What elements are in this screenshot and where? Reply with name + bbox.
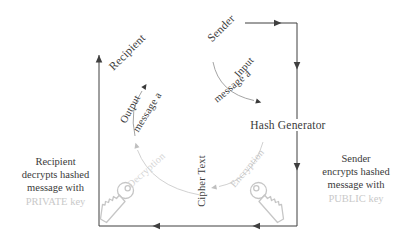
hash-generator-label: Hash Generator	[247, 119, 328, 131]
hash-signature-diagram: Recipient Sender Hash Generator Cipher T…	[0, 0, 394, 238]
sender-note-line: message with	[317, 178, 394, 191]
arrow-left-icon	[153, 223, 161, 230]
arrow-right-icon	[255, 99, 262, 106]
private-key-icon	[101, 183, 134, 223]
arrow-up-icon	[133, 142, 140, 149]
recipient-note-line: Recipient	[13, 155, 98, 168]
sender-note-line: Sender	[317, 152, 394, 165]
arrow-up-icon	[141, 82, 148, 89]
arrow-up-icon	[96, 55, 103, 63]
sender-note-line: encrypts hashed	[317, 165, 394, 178]
recipient-note-line: decrypts hashed	[13, 168, 98, 181]
recipient-note-line: message with	[13, 181, 98, 194]
recipient-note: Recipient decrypts hashed message with P…	[13, 155, 98, 208]
sender-note: Sender encrypts hashed message with PUBL…	[317, 152, 394, 205]
public-key-label: PUBLIC key	[317, 192, 394, 205]
public-key-icon	[251, 183, 284, 223]
cipher-text-label: Cipher Text	[196, 155, 207, 207]
arrow-right-icon	[274, 20, 282, 27]
arrow-down-icon	[294, 163, 301, 171]
private-key-label: PRIVATE key	[13, 195, 98, 208]
arrow-down-icon	[294, 62, 301, 70]
arrow-left-icon	[211, 184, 217, 190]
arrow-left-icon	[253, 223, 261, 230]
